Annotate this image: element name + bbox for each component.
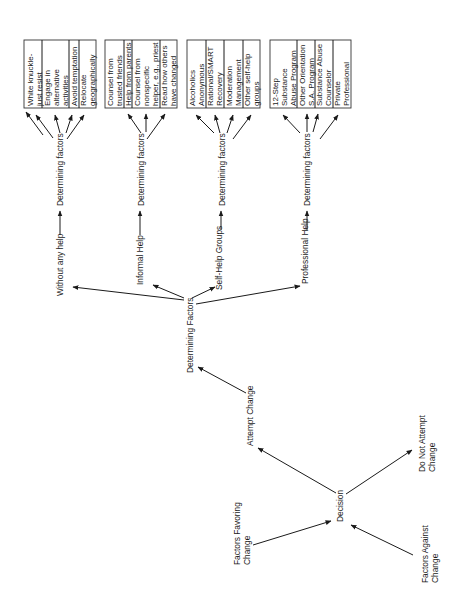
branch-label-without-help: Without any help [55, 233, 65, 296]
option-text: Help from parents [124, 42, 133, 106]
option-text: AlcoholicsAnonymous [188, 64, 206, 106]
options-box-informal-help: Counsel fromtrusted friends Help from pa… [105, 40, 178, 108]
branch-label-professional-help: Professional Help [300, 218, 310, 284]
change-decision-diagram: White knuckle-just resist Engage inalter… [0, 0, 450, 593]
fan-arrows-informal-help [128, 114, 165, 139]
outcome-attempt-change: Attempt Change [245, 385, 255, 446]
arrow-decision-to-attempt [258, 448, 336, 493]
arrow-attempt-to-determining [198, 367, 246, 393]
input-factors-favoring: Factors FavoringChange [232, 502, 252, 565]
central-node-label: Determining Factors [185, 298, 195, 373]
outcome-do-not-attempt: Do Not AttemptChange [417, 415, 437, 472]
option-text: Avoid temptation [70, 47, 79, 106]
branch-label-informal-help: Informal Help [135, 235, 145, 285]
arrow-against-to-decision [351, 525, 413, 555]
connector-label-informal-help: Determining factors [136, 133, 146, 206]
options-box-self-help-groups: AlcoholicsAnonymous Rational/SMARTRecove… [187, 40, 261, 108]
branch-label-self-help-groups: Self-Help Groups [214, 226, 224, 290]
arrow-favoring-to-decision [253, 521, 331, 545]
options-box-professional-help: 12-StepSubstanceAbuse Program Other Orie… [270, 40, 351, 108]
input-factors-against: Factors AgainstChange [420, 525, 440, 583]
option-text: Counsel fromtrusted friends [106, 55, 124, 106]
connector-label-professional-help: Determining factors [302, 133, 312, 206]
decision-label: Decision [335, 490, 345, 522]
connector-label-self-help-groups: Determining factors [217, 133, 227, 206]
options-box-without-help: White knuckle-just resist Engage inalter… [24, 40, 97, 108]
arrow-decision-to-no-attempt [346, 450, 412, 494]
connector-label-without-help: Determining factors [55, 133, 65, 206]
